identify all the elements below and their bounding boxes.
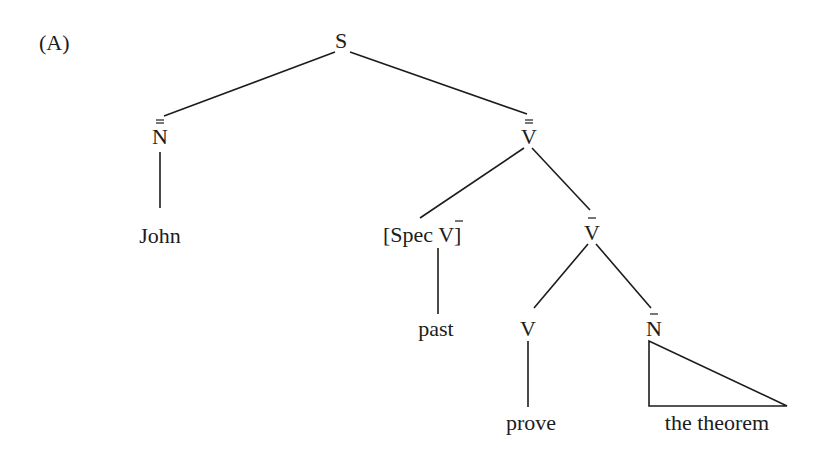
node-V-bar: V [584,218,600,245]
edge-S-Nbarbar [164,52,335,116]
node-N-bar: N [646,314,662,341]
svg-text:[Spec V]: [Spec V] [383,222,461,247]
leaf-the-theorem: the theorem [665,410,769,435]
leaf-John: John [139,223,181,248]
spec-open: [Spec [383,222,438,247]
node-Spec-V-bar: [Spec V] [383,221,463,247]
node-N-double-bar: N [152,120,168,149]
node-N-bar-label: N [646,316,662,341]
node-V-bar-label: V [584,220,600,245]
node-V-double-bar: V [521,120,537,149]
tree-edges [160,52,787,407]
node-V: V [520,316,536,341]
triangle-Nbar [649,341,787,406]
edge-Vbarbar-Spec [420,148,524,218]
node-V-double-bar-label: V [521,124,537,149]
leaf-prove: prove [506,410,556,435]
syntax-tree-diagram: (A) S N V John [Spec V] V [0,0,823,461]
spec-V: V [438,222,454,247]
node-S: S [335,28,347,53]
leaf-past: past [418,316,453,341]
node-N-double-bar-label: N [152,124,168,149]
edge-Vbar-V [534,244,588,308]
edge-Vbar-Nbar [596,244,651,308]
spec-close: ] [454,222,461,247]
edge-Vbarbar-Vbar [532,148,590,210]
figure-label: (A) [39,30,70,55]
edge-S-Vbarbar [350,52,527,114]
